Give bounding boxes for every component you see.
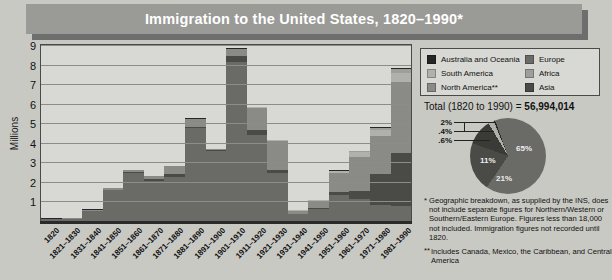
footnote-star: * — [424, 196, 427, 205]
bar-1871–1880 — [164, 166, 185, 221]
bar-segment-europe — [226, 62, 247, 221]
y-tick-5: 5 — [30, 118, 36, 130]
bar-1891–1900 — [206, 149, 227, 221]
legend-label: North America** — [441, 83, 498, 92]
pie-leader-line — [454, 140, 490, 141]
pie-leader-line — [454, 122, 496, 123]
bar-segment-europe — [267, 173, 288, 221]
bar-1931–1940 — [288, 210, 309, 221]
pie-label-65: 65% — [516, 144, 532, 153]
legend-item-australia-and-oceania: Australia and Oceania — [427, 53, 520, 66]
bar-segment-europe — [329, 195, 350, 221]
pie-label-2: 2% — [422, 118, 452, 127]
bar-1981–1990 — [391, 68, 412, 221]
y-tick-8: 8 — [30, 60, 36, 72]
y-tick-9: 9 — [30, 40, 36, 52]
y-tick-4: 4 — [30, 138, 36, 150]
legend-item-north-america-: North America** — [427, 81, 520, 94]
y-tick-7: 7 — [30, 79, 36, 91]
bar-segment-europe — [123, 173, 144, 221]
bar-1831–1840 — [82, 209, 103, 221]
footnote-one: * Geographic breakdown, as supplied by t… — [424, 196, 612, 242]
legend-label: Africa — [539, 69, 559, 78]
legend-swatch-icon — [525, 83, 534, 92]
x-axis-labels: 18201821–18301831–18401841–18501851–1860… — [40, 226, 412, 280]
bar-segment-north-america- — [247, 108, 268, 130]
bar-segment-europe — [82, 211, 103, 221]
pie-leader-line — [454, 131, 494, 132]
bar-segment-asia — [349, 191, 370, 199]
total-immigration-text: Total (1820 to 1990) = 56,994,014 — [424, 101, 612, 112]
legend-item-europe: Europe — [525, 53, 565, 66]
gridline-4 — [41, 143, 411, 144]
legend-label: Australia and Oceania — [441, 55, 520, 64]
bar-1881–1890 — [185, 118, 206, 221]
legend-item-africa: Africa — [525, 67, 565, 80]
bar-1951–1960 — [329, 170, 350, 221]
total-value: 56,994,014 — [524, 101, 574, 112]
bar-segment-europe — [103, 190, 124, 221]
legend-swatch-icon — [427, 55, 436, 64]
bar-1851–1860 — [123, 170, 144, 221]
legend-label: Europe — [539, 55, 565, 64]
footnote-two: ** Includes Canada, Mexico, the Caribbea… — [424, 247, 612, 265]
bar-1941–1950 — [308, 200, 329, 221]
gridline-2 — [41, 182, 411, 183]
y-tick-6: 6 — [30, 99, 36, 111]
footnote-two-text: Includes Canada, Mexico, the Caribbean, … — [431, 247, 612, 265]
plot-area — [40, 44, 412, 222]
pie-label-6: .6% — [422, 136, 452, 145]
bar-segment-europe — [370, 205, 391, 221]
legend-label: Asia — [539, 83, 555, 92]
gridline-5 — [41, 123, 411, 124]
legend-swatch-icon — [427, 83, 436, 92]
gridline-1 — [41, 201, 411, 202]
gridline-6 — [41, 104, 411, 105]
y-tick-3: 3 — [30, 157, 36, 169]
footnote-doublestar: ** — [424, 246, 430, 255]
gridline-8 — [41, 65, 411, 66]
legend-swatch-icon — [427, 69, 436, 78]
bar-segment-south-america — [391, 73, 412, 82]
chart-title-bar: Immigration to the United States, 1820–1… — [26, 4, 582, 34]
pie-label-4: .4% — [422, 127, 452, 136]
y-tick-2: 2 — [30, 177, 36, 189]
bar-1971–1980 — [370, 127, 391, 221]
legend-item-asia: Asia — [525, 81, 565, 94]
legend-column-right: EuropeAfricaAsia — [525, 53, 565, 95]
bar-1901–1910 — [226, 48, 247, 221]
pie-label-11: 11% — [480, 156, 496, 165]
legend-swatch-icon — [525, 69, 534, 78]
legend-item-south-america: South America — [427, 67, 520, 80]
y-tick-1: 1 — [30, 196, 36, 208]
pie-label-21: 21% — [496, 174, 512, 183]
bar-segment-north-america- — [226, 49, 247, 56]
pie-leader-line-vertical — [464, 122, 465, 132]
bar-segment-europe — [391, 206, 412, 221]
gridline-7 — [41, 84, 411, 85]
y-axis-ticks: 987654321 — [18, 42, 36, 224]
page-title: Immigration to the United States, 1820–1… — [145, 11, 463, 27]
legend-label: South America — [441, 69, 493, 78]
total-prefix: Total (1820 to 1990) = — [424, 101, 524, 112]
bar-segment-europe — [308, 209, 329, 221]
bar-segment-north-america- — [267, 141, 288, 171]
gridline-3 — [41, 162, 411, 163]
footnote-one-text: Geographic breakdown, as supplied by the… — [429, 196, 608, 242]
legend-column-left: Australia and OceaniaSouth AmericaNorth … — [427, 53, 520, 95]
bar-segment-europe — [164, 177, 185, 221]
x-axis-line — [40, 221, 412, 224]
bar-segment-europe — [288, 214, 309, 221]
bar-segment-north-america- — [370, 136, 391, 175]
bar-segment-europe — [247, 135, 268, 221]
bar-1841–1850 — [103, 188, 124, 221]
bar-series-container — [41, 45, 411, 221]
pie-chart: 65%21%11%2%.4%.6% — [470, 118, 550, 194]
bar-segment-north-america- — [164, 166, 185, 174]
bar-segment-asia — [391, 153, 412, 207]
legend-swatch-icon — [525, 55, 534, 64]
gridline-9 — [41, 45, 411, 46]
legend: Australia and OceaniaSouth AmericaNorth … — [420, 48, 600, 96]
footnotes: * Geographic breakdown, as supplied by t… — [424, 196, 612, 265]
bar-1921–1930 — [267, 140, 288, 222]
